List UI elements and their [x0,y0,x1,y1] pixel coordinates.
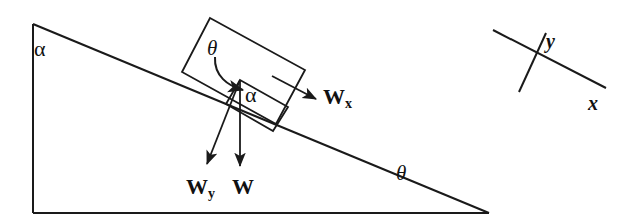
label-axis-x: x [588,93,598,113]
label-alpha-apex: α [34,38,46,60]
label-weight-perpendicular-base: W [186,174,208,199]
label-weight-parallel-base: W [323,84,345,109]
incline-hypotenuse [33,24,489,213]
figure-canvas [0,0,636,222]
label-weight-perpendicular: Wy [186,176,215,198]
axis-y-line [519,33,546,92]
label-theta-construction: θ [207,38,217,59]
weight-parallel-vector [272,76,316,99]
label-weight-perpendicular-subscript: y [208,186,215,201]
label-weight-total: W [232,176,254,198]
inclined-plane-figure: α α θ θ Wy W Wx y x [0,0,636,222]
weight-perpendicular-vector [207,80,240,164]
label-weight-parallel: Wx [323,86,352,108]
incline-triangle [33,24,489,213]
label-weight-parallel-subscript: x [345,96,352,111]
label-axis-y: y [546,31,555,51]
label-alpha-block: α [245,84,257,106]
label-theta-base-angle: θ [396,163,406,184]
